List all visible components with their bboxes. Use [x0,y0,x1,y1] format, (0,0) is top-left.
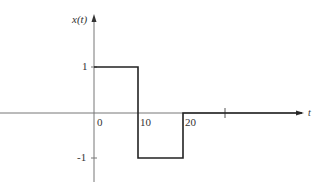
signal-plot: x(t) t 1 -1 0 10 20 [0,0,333,187]
y-tick-label-neg1: -1 [77,152,86,163]
plot-canvas [0,0,333,187]
y-tick-label-1: 1 [82,61,88,72]
y-axis-label: x(t) [72,14,87,25]
x-tick-label-20: 20 [185,117,196,128]
x-tick-label-10: 10 [140,117,151,128]
y-axis-arrow-icon [92,14,97,22]
x-axis-label: t [308,108,311,118]
x-tick-label-0: 0 [97,117,103,128]
